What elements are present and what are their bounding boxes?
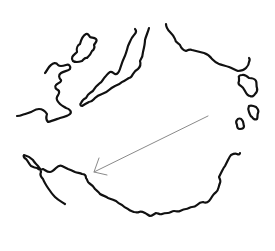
coast-left-wavy	[17, 63, 71, 122]
sketch-canvas	[0, 0, 275, 251]
island-right-large	[239, 75, 258, 97]
peninsula-center	[80, 28, 149, 106]
arrow	[94, 116, 208, 175]
coast-bottom-arc	[24, 153, 240, 216]
island-left-small	[72, 34, 97, 62]
coastline-sketch	[0, 0, 275, 251]
island-right-small	[236, 119, 244, 130]
island-right-medium	[248, 106, 258, 120]
arrow-shaft	[94, 116, 208, 172]
coast-upper-right	[166, 24, 250, 71]
